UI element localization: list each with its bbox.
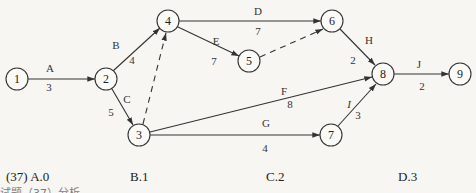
activity-label-A: A [46,62,54,74]
option-c: C.2 [266,169,284,185]
activity-label-H: H [365,34,373,46]
node-7: 7 [320,124,342,146]
activity-label-I: I [346,98,352,110]
activity-label-J: J [417,58,422,70]
duration-label-D: 7 [255,25,261,37]
duration-label-B: 4 [129,54,135,66]
node-5: 5 [238,50,260,72]
edge-2-4-B [113,28,160,71]
node-label-3: 3 [136,128,142,142]
node-label-2: 2 [103,72,109,86]
node-6: 6 [321,10,343,32]
node-label-7: 7 [328,128,334,142]
duration-label-E: 7 [211,55,217,67]
edge-5-6-dummy [260,29,323,57]
node-8: 8 [372,63,394,85]
node-label-5: 5 [246,54,252,68]
duration-label-F: 8 [287,98,293,110]
option-a: A.0 [30,169,49,184]
node-3: 3 [128,124,150,146]
cut-off-text-line: 试题（37）分析 [0,184,80,193]
option-b: B.1 [130,169,148,185]
duration-label-I: 3 [355,109,361,121]
node-1: 1 [6,68,28,90]
option-d: D.3 [398,169,417,185]
activity-label-E: E [213,35,220,47]
question-number: (37) [6,169,28,184]
node-2: 2 [95,68,117,90]
duration-label-C: 5 [108,106,114,118]
node-label-4: 4 [165,14,171,28]
node-label-8: 8 [380,67,386,81]
edge-4-5-E [178,27,239,56]
node-9: 9 [449,63,471,85]
activity-label-C: C [123,93,130,105]
activity-label-B: B [112,39,119,51]
activity-label-F: F [281,85,287,97]
activity-label-D: D [254,5,262,17]
activity-label-G: G [262,117,270,129]
duration-label-H: 2 [350,54,356,66]
duration-label-A: 3 [46,81,52,93]
node-4: 4 [157,10,179,32]
duration-label-G: 4 [262,142,268,154]
edge-3-8-F [150,77,372,132]
node-label-1: 1 [14,72,20,86]
node-label-9: 9 [457,67,463,81]
node-label-6: 6 [329,14,335,28]
question-number-and-option-a: (37) A.0 [6,169,49,185]
duration-label-J: 2 [419,80,425,92]
edge-3-4-dummy [143,33,166,124]
network-diagram: A 3 B 4 C 5 D 7 E 7 F 8 G 4 H 2 I 3 J 2 … [0,0,476,193]
